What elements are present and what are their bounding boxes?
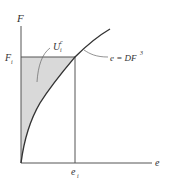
curve-label-exponent: 3: [139, 50, 143, 56]
curve-label: e = DF: [110, 53, 137, 63]
complementary-energy-area: [21, 57, 75, 163]
area-label-superscript: c: [60, 39, 63, 45]
y-axis-label: F: [16, 12, 24, 24]
fi-subscript: i: [11, 59, 13, 65]
ei-label: e: [71, 166, 76, 177]
x-axis-label: e: [155, 157, 160, 168]
curve-label-leader: [84, 50, 108, 57]
area-label-subscript: i: [60, 47, 62, 53]
force-displacement-diagram: F e F i e i U i c e = DF 3: [0, 0, 171, 182]
ei-subscript: i: [77, 173, 79, 179]
